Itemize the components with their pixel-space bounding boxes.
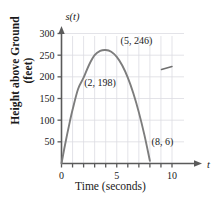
point-5-246: (5, 246) bbox=[121, 35, 153, 47]
point-2-198: (2, 198) bbox=[84, 77, 116, 89]
stray-dash-mark bbox=[162, 66, 172, 69]
x-tick-label: 5 bbox=[114, 170, 119, 181]
axis-lines bbox=[58, 26, 202, 167]
x-axis-name: t bbox=[207, 159, 211, 170]
y-tick-label: 100 bbox=[40, 115, 55, 126]
chart-figure: 0510 50100150200250300 (2, 198)(5, 246)(… bbox=[0, 0, 221, 200]
stray-dash-mark bbox=[162, 66, 172, 69]
point-8-6: (8, 6) bbox=[152, 136, 174, 148]
y-tick-label: 200 bbox=[40, 71, 55, 82]
y-axis-title: Height above Ground (feet) bbox=[9, 16, 34, 126]
x-axis-title: Time (seconds) bbox=[0, 180, 221, 192]
y-axis-title-line1: Height above Ground bbox=[9, 16, 22, 126]
x-tick-labels: 0510 bbox=[59, 170, 177, 181]
y-tick-label: 150 bbox=[40, 93, 55, 104]
y-axis-title-line2: (feet) bbox=[21, 16, 34, 126]
y-tick-label: 250 bbox=[40, 50, 55, 61]
y-tick-labels: 50100150200250300 bbox=[40, 28, 55, 147]
y-tick-label: 50 bbox=[45, 136, 55, 147]
x-tick-label: 10 bbox=[167, 170, 177, 181]
x-tick-label: 0 bbox=[59, 170, 64, 181]
x-axis-arrow bbox=[194, 160, 202, 166]
y-tick-label: 300 bbox=[40, 28, 55, 39]
y-axis-arrow bbox=[58, 26, 64, 34]
y-axis-name: s(t) bbox=[66, 11, 81, 23]
